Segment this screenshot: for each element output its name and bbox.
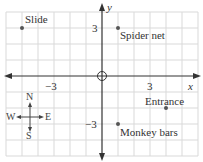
y-tick-neg3: −3	[85, 119, 97, 130]
point-label-monkey-bars: Monkey bars	[120, 127, 178, 138]
compass-east: E	[45, 112, 51, 122]
x-tick-3: 3	[147, 81, 153, 92]
y-tick-3: 3	[92, 23, 98, 34]
point-label-slide: Slide	[25, 14, 48, 25]
point-label-spider-net: Spider net	[120, 30, 165, 41]
compass-south: S	[26, 131, 32, 141]
x-tick-neg3: −3	[45, 81, 57, 92]
compass-north: N	[26, 92, 33, 102]
point-label-entrance: Entrance	[145, 96, 184, 107]
x-axis-label: x	[188, 81, 193, 92]
compass-west: W	[6, 112, 15, 122]
y-axis-label: y	[107, 2, 112, 13]
